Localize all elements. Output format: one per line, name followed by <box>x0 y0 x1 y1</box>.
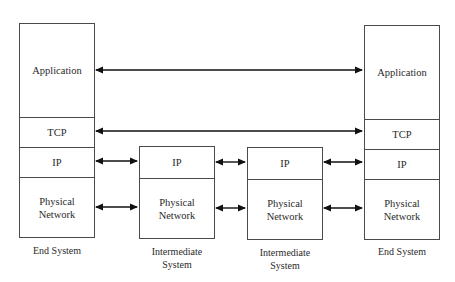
layer-ip: IP <box>248 148 322 179</box>
system-label-text: End System <box>378 246 426 257</box>
intermediate-system-2-stack: IP Physical Network <box>247 147 323 240</box>
layer-label-line2: Network <box>384 210 421 223</box>
layer-physical-network: Physical Network <box>140 178 214 239</box>
layer-label: TCP <box>392 128 411 141</box>
system-label-line2: System <box>235 259 335 272</box>
layer-label: Application <box>32 64 82 77</box>
intermediate-system-1-stack: IP Physical Network <box>139 146 215 239</box>
end-system-left-stack: Application TCP IP Physical Network <box>19 23 95 238</box>
layer-label: IP <box>52 156 61 169</box>
end-system-right-stack: Application TCP IP Physical Network <box>364 25 440 240</box>
system-label-line2: System <box>127 258 227 271</box>
layer-label: IP <box>172 156 181 169</box>
system-label-intermediate-2: Intermediate System <box>235 246 335 272</box>
layer-label: Application <box>377 66 427 79</box>
layer-ip: IP <box>140 147 214 178</box>
layer-label-line1: Physical <box>384 197 420 210</box>
system-label-intermediate-1: Intermediate System <box>127 245 227 271</box>
layer-physical-network: Physical Network <box>365 179 439 240</box>
layer-tcp: TCP <box>20 117 94 147</box>
layer-label-line1: Physical <box>39 195 75 208</box>
system-label-line1: Intermediate <box>127 245 227 258</box>
layer-label-line2: Network <box>39 208 76 221</box>
layer-label: IP <box>280 157 289 170</box>
system-label-end-left: End System <box>10 244 104 257</box>
layer-ip: IP <box>20 147 94 177</box>
layer-label: IP <box>397 158 406 171</box>
layer-application: Application <box>365 26 439 119</box>
layer-label-line2: Network <box>159 209 196 222</box>
layer-tcp: TCP <box>365 119 439 149</box>
layer-application: Application <box>20 24 94 117</box>
layer-physical-network: Physical Network <box>20 177 94 238</box>
system-label-end-right: End System <box>355 245 449 258</box>
layer-label-line1: Physical <box>159 196 195 209</box>
layer-label-line2: Network <box>267 210 304 223</box>
layer-label: TCP <box>47 126 66 139</box>
layer-ip: IP <box>365 149 439 179</box>
layer-label-line1: Physical <box>267 197 303 210</box>
system-label-line1: Intermediate <box>235 246 335 259</box>
layer-physical-network: Physical Network <box>248 179 322 240</box>
system-label-text: End System <box>33 245 81 256</box>
